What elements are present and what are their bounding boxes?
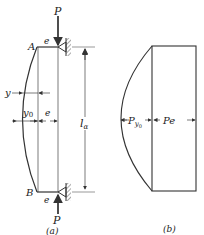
eccentricity-label-top: e (44, 36, 49, 46)
panel-b: Py0 Pe (b) (121, 46, 196, 234)
deflected-column (23, 47, 38, 192)
panel-a: P A e y y0 e lα B e P (a) (4, 5, 95, 235)
point-label-b: B (25, 187, 33, 198)
deflection-moment-curve (121, 46, 152, 191)
eccentric-column-diagram: P A e y y0 e lα B e P (a) Py0 Pe (b) (0, 0, 204, 235)
caption-b: (b) (163, 224, 176, 234)
caption-a: (a) (46, 226, 59, 235)
load-label-top: P (53, 5, 62, 18)
moment-deflection-label: Py0 (127, 115, 142, 129)
moment-eccentric-label: Pe (162, 115, 175, 126)
length-label: lα (80, 117, 89, 131)
bottom-pin-support (58, 183, 71, 201)
max-deflection-label: y0 (22, 107, 33, 119)
point-label-a: A (27, 41, 35, 52)
deflection-label: y (4, 87, 11, 98)
eccentricity-label-bottom: e (44, 195, 49, 205)
top-pin-support (58, 38, 71, 56)
eccentricity-label-mid: e (45, 108, 50, 118)
